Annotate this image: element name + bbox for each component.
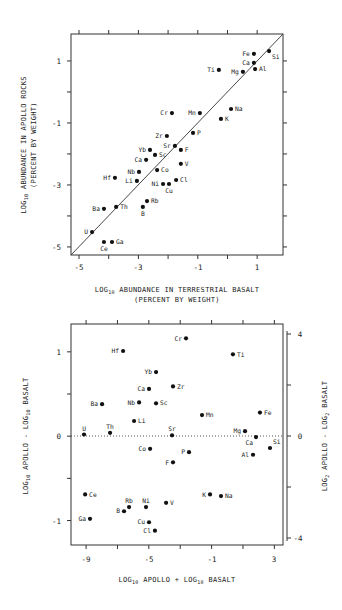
point-label: Ca	[245, 439, 253, 446]
point-marker	[155, 168, 159, 172]
data-point: B	[141, 205, 145, 217]
point-marker	[179, 162, 183, 166]
data-point: Ce	[83, 491, 97, 498]
point-marker	[167, 182, 171, 186]
point-label: F	[165, 459, 169, 466]
point-label: Ni	[142, 497, 150, 504]
point-marker	[252, 61, 256, 65]
point-marker	[122, 509, 126, 513]
data-point: Li	[125, 177, 139, 184]
point-marker	[231, 352, 235, 356]
point-marker	[187, 450, 191, 454]
bottom-data-points: CrHfTiYbZrCaBaNbScFeMnLiUThSrMgCaSiCoPAl…	[78, 335, 280, 534]
point-marker	[153, 529, 157, 533]
bottom-x-tick-label: -1	[207, 555, 216, 564]
data-point: Th	[106, 423, 114, 435]
point-label: Rb	[125, 497, 133, 504]
point-marker	[253, 67, 257, 71]
point-label: V	[185, 160, 189, 167]
point-marker	[127, 505, 131, 509]
point-marker	[243, 429, 247, 433]
data-point: Mn	[200, 411, 214, 418]
point-label: Co	[138, 445, 146, 452]
point-label: Ti	[207, 66, 215, 73]
data-point: Ca	[245, 435, 258, 446]
data-point: Mg	[233, 427, 247, 435]
data-point: Ga	[78, 515, 92, 522]
data-point: Nb	[128, 399, 142, 406]
point-label: Cl	[180, 176, 188, 183]
point-label: Mg	[233, 427, 241, 435]
bottom-plot-frame	[71, 324, 283, 545]
data-point: V	[179, 160, 189, 167]
data-point: Mn	[188, 109, 202, 116]
point-marker	[144, 158, 148, 162]
data-point: F	[165, 459, 175, 466]
bottom-x-tick-label: 3	[272, 555, 277, 564]
point-marker	[137, 400, 141, 404]
point-marker	[229, 107, 233, 111]
point-label: B	[141, 210, 145, 217]
point-label: P	[197, 129, 201, 136]
bottom-y-right-tick-label: 0	[298, 432, 303, 441]
data-point: Ca	[135, 156, 149, 163]
point-marker	[267, 49, 271, 53]
data-point: P	[181, 448, 191, 455]
data-point: Al	[241, 451, 255, 458]
point-label: Mg	[231, 68, 239, 76]
bottom-y-tick-label: 1	[56, 348, 61, 357]
bottom-x-tick-label: -9	[81, 555, 90, 564]
point-label: Sc	[159, 151, 167, 158]
data-point: Na	[219, 492, 233, 499]
point-label: Yb	[138, 146, 146, 153]
bottom-y-tick-label: -1	[52, 517, 61, 526]
point-marker	[110, 240, 114, 244]
point-label: Ni	[151, 180, 159, 187]
data-point: Ti	[231, 351, 245, 358]
top-y-axis-label: LOG10 ABUNDANCE IN APOLLO ROCKS	[20, 76, 29, 214]
point-label: B	[116, 507, 120, 514]
data-point: Zr	[155, 132, 169, 139]
top-x-tick-label: -1	[193, 263, 202, 272]
point-label: Cl	[143, 527, 151, 534]
data-point: Th	[114, 203, 128, 210]
point-label: Mn	[206, 411, 214, 418]
point-marker	[184, 336, 188, 340]
data-point: P	[191, 129, 201, 136]
point-marker	[102, 207, 106, 211]
top-y-tick-label: -3	[52, 181, 61, 190]
point-label: Ca	[135, 156, 143, 163]
data-point: Mg	[231, 68, 245, 76]
data-point: Sr	[163, 142, 177, 149]
point-marker	[145, 199, 149, 203]
data-point: Ti	[207, 66, 221, 73]
top-x-axis-label-line2: (PERCENT BY WEIGHT)	[134, 296, 220, 304]
point-label: Cu	[165, 187, 173, 194]
point-marker	[90, 230, 94, 234]
data-point: Ga	[110, 238, 124, 245]
point-label: P	[181, 448, 185, 455]
point-marker	[121, 349, 125, 353]
data-point: Ni	[151, 180, 165, 187]
bottom-y-right-axis-label: LOG2 APOLLO - LOG2 BASALT	[321, 380, 330, 491]
point-marker	[161, 182, 165, 186]
point-marker	[171, 460, 175, 464]
point-label: Ce	[89, 491, 97, 498]
data-point: Hf	[112, 347, 126, 354]
bottom-x-tick-label: -5	[144, 555, 153, 564]
data-point: Rb	[125, 497, 133, 509]
point-label: Hf	[112, 347, 120, 354]
point-label: Cr	[174, 335, 182, 342]
point-marker	[88, 517, 92, 521]
data-point: Ba	[92, 205, 106, 212]
point-label: Ga	[116, 238, 124, 245]
bottom-y-right-tick-label: -4	[293, 534, 303, 543]
point-marker	[135, 179, 139, 183]
point-marker	[148, 447, 152, 451]
data-point: Zr	[171, 383, 185, 390]
point-label: Cr	[160, 109, 168, 116]
top-x-axis-label: LOG10 ABUNDANCE IN TERRESTRIAL BASALT	[95, 286, 260, 295]
point-label: Ba	[90, 400, 98, 407]
data-point: F	[179, 146, 189, 153]
point-label: Li	[138, 417, 146, 424]
